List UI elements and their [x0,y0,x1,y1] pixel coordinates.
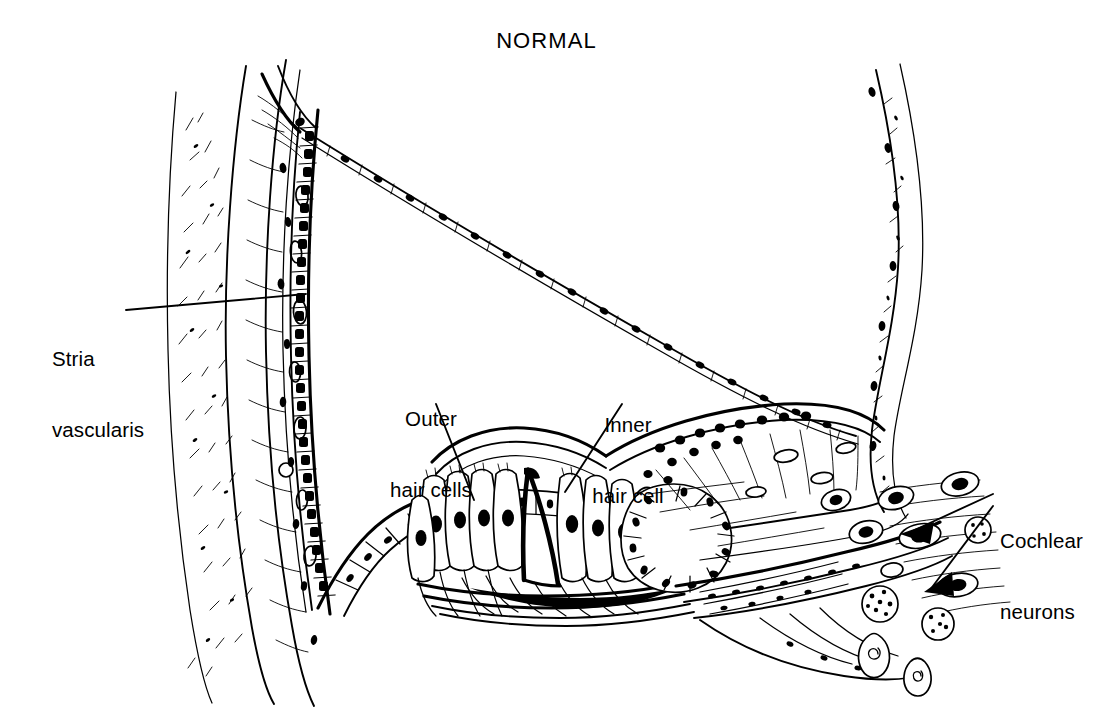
cochlear-neurons-arrowhead-2 [924,572,954,596]
modiolar-wall [867,64,923,518]
cochlear-neuron-spiral [904,658,931,696]
cochlear-neuron-cell [939,469,981,500]
label-inner-hair-cell-line2: hair cell [574,484,682,508]
stria-vascularis [290,110,335,614]
label-cochlear-neurons: Cochlear neurons [1000,482,1083,670]
modiolar-wall-nuclei [867,86,900,451]
label-cochlear-neurons-line1: Cochlear [1000,529,1083,553]
spiral-ganglion [819,469,1010,696]
leader-stria-vascularis [126,294,306,310]
reissner-attachment [258,66,316,158]
cochlea-cross-section-drawing [0,0,1093,711]
label-outer-hair-cells: Outer hair cells [376,360,486,548]
label-stria-vascularis: Stria vascularis [52,300,144,488]
label-inner-hair-cell-line1: Inner [574,413,682,437]
otic-capsule-bone [167,66,274,704]
label-outer-hair-cells-line1: Outer [376,407,486,431]
cochlear-neuron-stippled [922,608,954,640]
cochlear-neuron-stippled [862,586,898,622]
label-cochlear-neurons-line2: neurons [1000,600,1083,624]
pillar-cells [523,467,560,586]
label-stria-vascularis-line1: Stria [52,347,144,371]
label-outer-hair-cells-line2: hair cells [376,478,486,502]
cochlear-neuron-spiral [859,634,890,678]
label-stria-vascularis-line2: vascularis [52,418,144,442]
figure-canvas: NORMAL [0,0,1093,711]
label-inner-hair-cell: Inner hair cell [574,366,682,554]
